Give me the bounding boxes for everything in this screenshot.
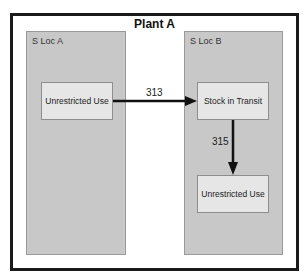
arrow-label-313: 313: [146, 87, 163, 98]
arrow-315: [228, 120, 238, 175]
arrows-layer: [0, 0, 307, 276]
arrow-label-315: 315: [212, 136, 229, 147]
